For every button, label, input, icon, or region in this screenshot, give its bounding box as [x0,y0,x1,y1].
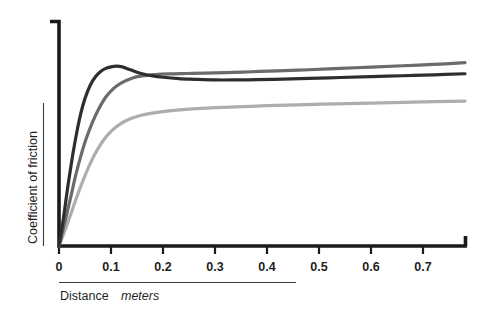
y-axis-line [50,20,61,248]
x-ticklabel-0.2: 0.2 [154,260,171,274]
x-ticklabel-0.1: 0.1 [102,260,119,274]
x-axis-tick-labels: 0 0.1 0.2 0.3 0.4 0.5 0.6 0.7 [56,260,432,274]
curve-light-gray-curve [59,101,465,246]
data-curves-group [59,63,465,246]
friction-distance-plot: 0 0.1 0.2 0.3 0.4 0.5 0.6 0.7 Distance m… [0,0,487,316]
y-axis-title: Coefficient of friction [26,131,40,244]
x-ticklabel-0: 0 [56,260,63,274]
x-ticklabel-0.7: 0.7 [414,260,431,274]
chart-figure: 0 0.1 0.2 0.3 0.4 0.5 0.6 0.7 Distance m… [0,0,487,316]
curve-medium-gray-curve [59,63,465,246]
x-axis-title-unit: meters [121,289,159,303]
curve-dark-curve [59,66,465,246]
x-axis-line [57,236,467,246]
x-axis-title: Distance [60,289,109,303]
x-ticklabel-0.5: 0.5 [310,260,327,274]
x-ticklabel-0.6: 0.6 [362,260,379,274]
x-ticklabel-0.4: 0.4 [258,260,275,274]
x-ticklabel-0.3: 0.3 [206,260,223,274]
